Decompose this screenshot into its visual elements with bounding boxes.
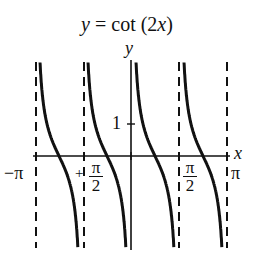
x-axis-label: x [234,143,242,164]
x-tick-label-neg-pi-half: π2 [89,160,103,193]
x-tick-neg-sign: + [75,165,83,182]
y-axis-label: y [125,38,133,59]
frac-num: π [186,158,195,177]
curve-branch [40,63,78,248]
curve-branch [184,63,222,248]
frac-num: π [92,158,101,177]
curve-branch [88,63,126,248]
x-tick-label-pi: π [231,163,240,184]
frac-den: 2 [186,176,195,195]
x-tick-label-neg-pi: −π [4,163,23,184]
curve-branch [136,63,174,248]
frac-den: 2 [92,176,101,195]
y-tick-label-1: 1 [112,113,121,134]
x-tick-label-pi-half: π2 [183,160,197,193]
